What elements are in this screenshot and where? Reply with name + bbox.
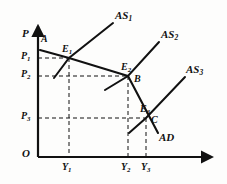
curve-label-as3-sub: 3 (199, 68, 203, 77)
point-label-b: B (134, 74, 141, 84)
equilibrium-label-e1: E1 (62, 44, 72, 54)
tick-label-y2: Y2 (121, 162, 131, 172)
equilibrium-label-e3: E3 (140, 104, 150, 114)
equilibrium-label-e2-sub: 2 (128, 66, 131, 73)
price-axis-label: P (22, 28, 29, 39)
equilibrium-label-e3-sub: 3 (147, 108, 150, 115)
curve-label-as2: AS2 (161, 29, 178, 40)
equilibrium-label-e1-text: E (62, 43, 69, 54)
origin-label: O (22, 148, 30, 159)
curve-label-ad: AD (159, 132, 174, 143)
tick-label-y3-sub: 3 (147, 166, 150, 173)
tick-label-p3-sub: 3 (27, 115, 30, 122)
tick-label-y2-sub: 2 (127, 166, 130, 173)
curve-label-as1-sub: 1 (128, 14, 132, 23)
tick-label-y3: Y3 (141, 162, 151, 172)
tick-label-p1-sub: 1 (27, 55, 30, 62)
point-label-c: C (151, 115, 158, 125)
tick-label-p1: P1 (21, 51, 31, 61)
tick-label-y1-sub: 1 (68, 166, 71, 173)
equilibrium-label-e2-text: E (121, 61, 128, 72)
equilibrium-label-e3-text: E (140, 103, 147, 114)
equilibrium-label-e1-sub: 1 (69, 48, 72, 55)
diagram-canvas (0, 0, 227, 184)
ad-as-diagram: P O P1 P2 P3 Y1 Y2 Y3 E1 E2 E3 A B C AS1… (0, 0, 227, 184)
curve-label-as2-text: AS (161, 28, 174, 40)
equilibrium-label-e2: E2 (121, 62, 131, 72)
tick-label-p3: P3 (21, 111, 31, 121)
curve-label-as2-sub: 2 (174, 33, 178, 42)
curve-label-as3: AS3 (186, 64, 203, 75)
curve-label-as3-text: AS (186, 63, 199, 75)
point-label-a: A (41, 34, 48, 44)
tick-label-p2: P2 (21, 69, 31, 79)
tick-label-p2-sub: 2 (27, 73, 30, 80)
curve-label-as1-text: AS (115, 9, 128, 21)
tick-label-y1: Y1 (62, 162, 72, 172)
curve-label-as1: AS1 (115, 10, 132, 21)
